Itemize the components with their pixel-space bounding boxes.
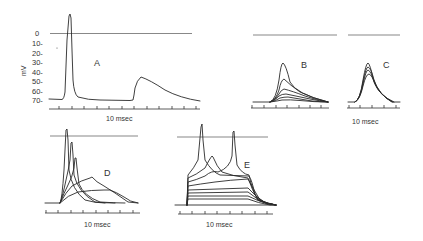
time-scale-label: 10 msec (84, 221, 111, 228)
time-ticks (59, 106, 196, 109)
trace-family-b (253, 63, 328, 102)
y-tick-20: 20- (32, 49, 43, 58)
panel-d: D 10 msec (45, 129, 140, 228)
y-tick-0: 0 (35, 29, 39, 38)
panel-label: A (94, 58, 100, 68)
figure-canvas: 0 10- 20- 30- 40- 50- 60- 70- mV (0, 0, 423, 241)
time-ticks (180, 211, 267, 214)
time-ticks (349, 105, 396, 108)
panel-label: B (301, 60, 307, 70)
panel-b: B (251, 35, 337, 108)
trace-family-d (45, 129, 138, 203)
y-axis-ticks: 0 10- 20- 30- 40- 50- 60- 70- (32, 29, 43, 105)
time-ticks (46, 210, 133, 213)
dot-mark (56, 47, 57, 48)
y-axis-unit: mV (20, 65, 27, 76)
y-tick-50: 50- (32, 77, 43, 86)
panel-label: C (383, 60, 390, 70)
time-scale-label: 10 msec (352, 118, 379, 125)
y-tick-10: 10- (32, 39, 43, 48)
y-tick-30: 30- (32, 58, 43, 67)
y-tick-60: 60- (32, 87, 43, 96)
panel-label: E (244, 160, 250, 170)
time-scale-label: 10 msec (206, 221, 233, 228)
time-ticks (252, 105, 321, 108)
trace-family-c (348, 63, 400, 102)
time-scale-label: 10 msec (106, 115, 133, 122)
trace-family-e (175, 124, 276, 205)
panel-label: D (104, 168, 111, 178)
y-tick-70: 70- (32, 96, 43, 105)
trace-a (49, 14, 200, 101)
panel-a: 0 10- 20- 30- 40- 50- 60- 70- mV (20, 14, 200, 122)
panel-e: E 10 msec (175, 124, 276, 228)
panel-c: C 10 msec (347, 35, 400, 125)
y-tick-40: 40- (32, 68, 43, 77)
